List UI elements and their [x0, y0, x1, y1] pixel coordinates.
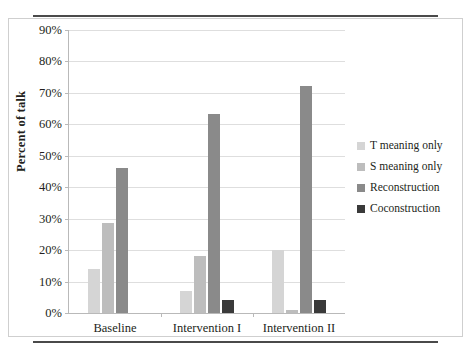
bar [286, 310, 299, 313]
y-tick-label: 40% [39, 181, 62, 194]
bar [314, 300, 327, 313]
bar [194, 256, 207, 313]
bar [102, 223, 115, 313]
legend-item: Reconstruction [357, 182, 461, 194]
legend-swatch-icon [357, 205, 365, 213]
x-axis-label: Intervention II [253, 322, 345, 335]
legend-label: S meaning only [370, 161, 442, 173]
legend-item: S meaning only [357, 161, 461, 173]
y-axis-title: Percent of talk [14, 91, 29, 172]
bar [300, 86, 313, 313]
legend-swatch-icon [357, 184, 365, 192]
legend-swatch-icon [357, 163, 365, 171]
y-tick-label: 60% [39, 118, 62, 131]
legend-item: T meaning only [357, 140, 461, 152]
y-tick-label: 30% [39, 212, 62, 225]
y-tick-label: 90% [39, 24, 62, 37]
figure-rule-bottom [33, 341, 438, 343]
figure-rule-top [33, 15, 438, 17]
bar-group [253, 30, 345, 313]
x-tick-mark [253, 313, 254, 317]
bar-group [161, 30, 253, 313]
legend-label: Reconstruction [370, 182, 440, 194]
x-axis-label: Baseline [69, 322, 161, 335]
bar [88, 269, 101, 313]
bar-groups [69, 30, 345, 313]
y-tick-label: 0% [45, 307, 62, 320]
y-tick-mark [65, 313, 69, 314]
bar [116, 168, 129, 313]
x-tick-mark [161, 313, 162, 317]
legend-label: T meaning only [370, 140, 443, 152]
legend-label: Coconstruction [370, 203, 440, 215]
bar [180, 291, 193, 313]
bar-group [69, 30, 161, 313]
legend-swatch-icon [357, 142, 365, 150]
y-tick-label: 50% [39, 150, 62, 163]
legend-item: Coconstruction [357, 203, 461, 215]
bar [272, 250, 285, 313]
y-tick-label: 70% [39, 87, 62, 100]
y-tick-label: 20% [39, 244, 62, 257]
plot-area: 0%10%20%30%40%50%60%70%80%90% BaselineIn… [68, 30, 345, 314]
bar [222, 300, 235, 313]
y-tick-label: 10% [39, 275, 62, 288]
bar [208, 114, 221, 313]
y-tick-label: 80% [39, 55, 62, 68]
legend: T meaning onlyS meaning onlyReconstructi… [357, 140, 461, 224]
x-axis-label: Intervention I [161, 322, 253, 335]
